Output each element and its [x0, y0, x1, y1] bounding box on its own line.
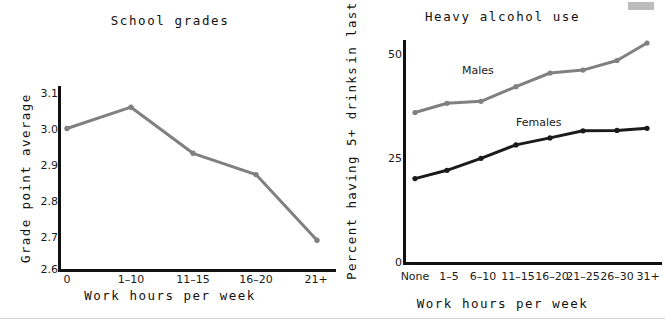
data-line-females — [415, 128, 647, 178]
y-axis-label-right-line2: in last 2 weeks — [344, 0, 359, 64]
y-axis-label-right-line1: Percent having 5+ drinks — [344, 66, 359, 280]
data-line-gpa — [67, 107, 317, 240]
chart-panel-heavy-alcohol-use: Heavy alcohol use Work hours per week 50… — [340, 0, 665, 323]
data-markers-females — [412, 126, 649, 181]
y-axis-label-right: Percent having 5+ drinks in last 2 weeks — [344, 0, 359, 280]
figure-container: School grades Grade point average Work h… — [0, 0, 665, 323]
corner-marker — [628, 2, 654, 10]
plot-area-right — [340, 0, 665, 323]
bottom-divider — [0, 318, 665, 319]
data-markers-males — [412, 40, 649, 115]
data-markers-gpa — [64, 105, 319, 244]
chart-panel-school-grades: School grades Grade point average Work h… — [0, 0, 340, 323]
axis-lines-left — [60, 86, 337, 271]
data-line-males — [415, 43, 647, 113]
plot-area-left — [0, 0, 340, 323]
axis-lines-right — [405, 40, 663, 264]
